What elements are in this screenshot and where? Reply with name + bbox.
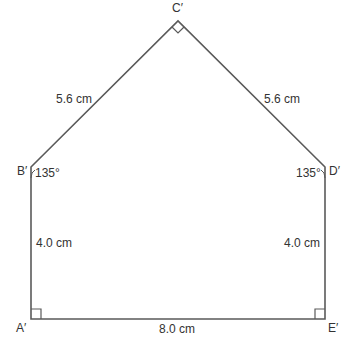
side-label-ae: 8.0 cm	[159, 323, 195, 335]
angle-label-b: 135°	[35, 167, 60, 179]
side-label-bc: 5.6 cm	[56, 93, 92, 105]
side-label-de: 4.0 cm	[284, 237, 320, 249]
right-angle-marker-c	[172, 27, 184, 33]
vertex-label-c: C′	[172, 2, 183, 14]
angle-label-d: 135°	[296, 167, 321, 179]
vertex-label-a: A′	[16, 322, 26, 334]
vertex-label-e: E′	[328, 322, 338, 334]
right-angle-marker-e	[315, 309, 325, 319]
vertex-label-b: B′	[17, 165, 27, 177]
side-label-cd: 5.6 cm	[264, 93, 300, 105]
right-angle-marker-a	[31, 309, 41, 319]
vertex-label-d: D′	[329, 165, 340, 177]
side-label-ab: 4.0 cm	[36, 237, 72, 249]
pentagon-outline	[31, 21, 325, 319]
